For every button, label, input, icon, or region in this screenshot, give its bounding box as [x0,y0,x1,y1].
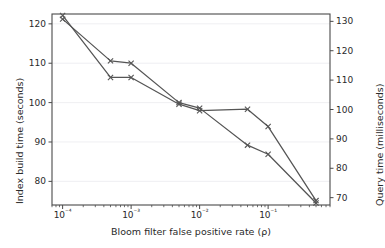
right-axis-label: Query time (milliseconds) [374,84,385,206]
x-axis-label: Bloom filter false positive rate (ρ) [0,226,382,237]
left-axis-label: Index build time (seconds) [14,78,25,204]
x-tick-label: 10⁻³ [122,208,140,220]
x-tick-label: 10⁻¹ [259,208,277,220]
x-tick-label: 10⁻⁴ [54,208,72,220]
x-tick-label: 10⁻² [191,208,209,220]
